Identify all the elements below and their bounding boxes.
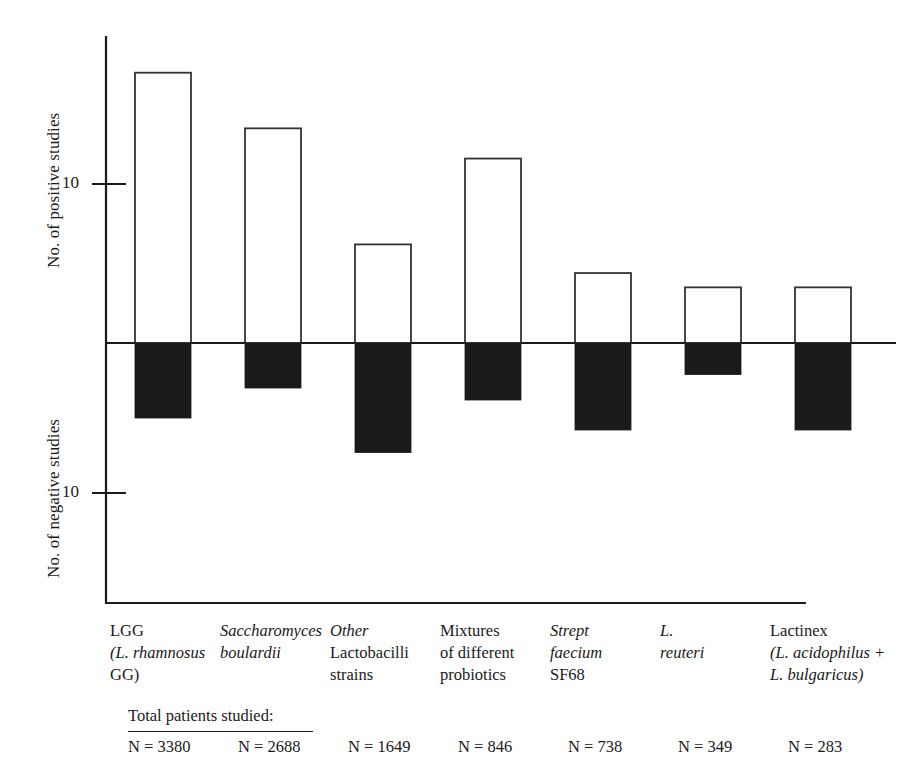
category-label-line: Saccharomyces (220, 620, 322, 642)
category-label-line: (L. rhamnosus (110, 642, 205, 664)
category-label-line: L. (660, 620, 704, 642)
category-label: Lactinex(L. acidophilus +L. bulgaricus) (770, 620, 885, 686)
category-label-line: Mixtures (440, 620, 514, 642)
probiotic-studies-figure: No. of positive studies No. of negative … (0, 0, 918, 784)
category-label-line: GG) (110, 664, 205, 686)
category-label-line: L. bulgaricus) (770, 664, 885, 686)
bar-negative (245, 343, 301, 388)
bar-negative (135, 343, 191, 418)
category-label-line: probiotics (440, 664, 514, 686)
bar-negative (575, 343, 631, 430)
total-patients-value: N = 3380 (128, 737, 190, 757)
category-label-line: LGG (110, 620, 205, 642)
total-patients-value: N = 846 (458, 737, 512, 757)
bar-positive (245, 128, 301, 343)
category-label: StreptfaeciumSF68 (550, 620, 602, 686)
bar-negative (465, 343, 521, 400)
category-label-line: Other (330, 620, 409, 642)
totals-underline (128, 731, 313, 732)
total-patients-value: N = 283 (788, 737, 842, 757)
bar-negative (355, 343, 411, 453)
category-label-line: of different (440, 642, 514, 664)
total-patients-value: N = 1649 (348, 737, 410, 757)
category-label-line: strains (330, 664, 409, 686)
category-label-line: (L. acidophilus + (770, 642, 885, 664)
y-axis-positive-title: No. of positive studies (44, 113, 64, 268)
category-label-line: boulardii (220, 642, 322, 664)
y-axis-negative-title: No. of negative studies (44, 419, 64, 578)
bar-negative (795, 343, 851, 430)
category-label-line: SF68 (550, 664, 602, 686)
category-label: OtherLactobacillistrains (330, 620, 409, 686)
category-label-line: Lactobacilli (330, 642, 409, 664)
bar-positive (575, 273, 631, 343)
total-patients-value: N = 738 (568, 737, 622, 757)
bar-positive (465, 159, 521, 343)
category-label-line: Strept (550, 620, 602, 642)
category-label-line: Lactinex (770, 620, 885, 642)
category-label-line: faecium (550, 642, 602, 664)
bar-positive (795, 287, 851, 343)
category-label: Saccharomycesboulardii (220, 620, 322, 664)
category-label: Mixturesof differentprobiotics (440, 620, 514, 686)
category-label-line: reuteri (660, 642, 704, 664)
bar-positive (355, 244, 411, 343)
total-patients-value: N = 2688 (238, 737, 300, 757)
category-label: LGG(L. rhamnosusGG) (110, 620, 205, 686)
bar-negative (685, 343, 741, 375)
category-label-row: LGG(L. rhamnosusGG)Saccharomycesboulardi… (106, 620, 918, 700)
tick-label-positive-10: 10 (62, 173, 79, 193)
total-patients-value: N = 349 (678, 737, 732, 757)
totals-heading: Total patients studied: (128, 706, 274, 726)
bars-group (135, 73, 851, 453)
tick-label-negative-10: 10 (62, 482, 79, 502)
category-label: L.reuteri (660, 620, 704, 664)
bar-positive (135, 73, 191, 343)
bar-positive (685, 287, 741, 343)
